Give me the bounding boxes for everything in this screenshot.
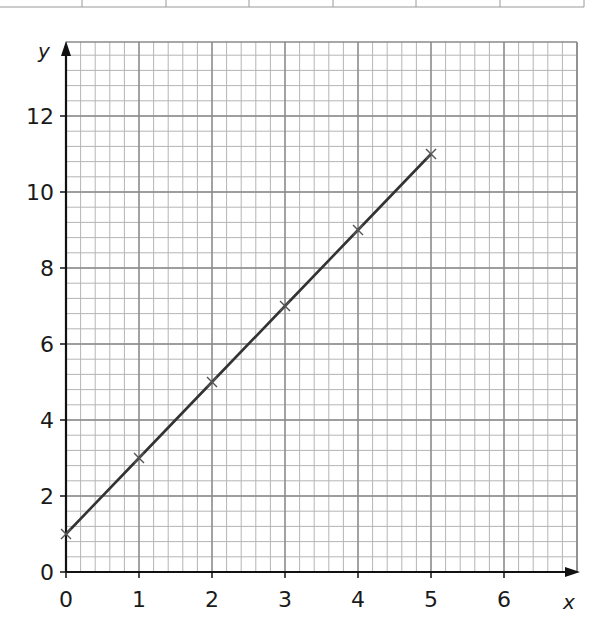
tick-labels: 0123456024681012 (26, 104, 511, 612)
y-tick-label: 12 (26, 104, 54, 129)
x-tick-label: 4 (351, 587, 365, 612)
grid-minor (66, 42, 577, 572)
grid-major (66, 42, 577, 572)
y-tick-label: 2 (40, 484, 54, 509)
y-tick-label: 4 (40, 408, 54, 433)
x-axis-label: x (562, 590, 575, 614)
x-tick-label: 0 (59, 587, 73, 612)
x-tick-label: 2 (205, 587, 219, 612)
y-tick-label: 0 (40, 560, 54, 585)
y-axis-label: y (37, 39, 51, 63)
x-tick-label: 6 (497, 587, 511, 612)
x-tick-label: 3 (278, 587, 292, 612)
x-tick-label: 5 (424, 587, 438, 612)
line-chart: 0123456024681012 x y (0, 0, 597, 617)
y-tick-label: 6 (40, 332, 54, 357)
y-tick-label: 8 (40, 256, 54, 281)
y-tick-label: 10 (26, 180, 54, 205)
x-tick-label: 1 (132, 587, 146, 612)
